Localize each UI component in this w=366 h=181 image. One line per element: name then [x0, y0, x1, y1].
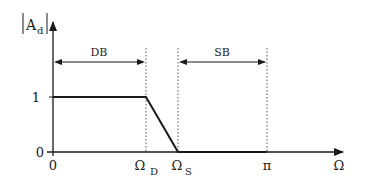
svg-text:Ω: Ω — [135, 158, 146, 173]
sb-band-arrow — [179, 59, 266, 65]
db-band-arrow — [54, 59, 145, 65]
x-tick-label-omega-s: Ω S — [172, 158, 192, 177]
y-tick-label-1: 1 — [32, 90, 40, 105]
x-tick-label-omega-d: Ω D — [135, 158, 158, 177]
filter-response-diagram: A d DB SB 1 0 0 Ω D Ω S π Ω — [0, 0, 366, 181]
x-tick-label-0: 0 — [49, 158, 57, 173]
svg-text:D: D — [150, 166, 158, 177]
svg-text:d: d — [37, 25, 44, 36]
db-band-label: DB — [91, 46, 108, 59]
svg-text:S: S — [185, 166, 192, 177]
svg-text:Ω: Ω — [172, 158, 183, 173]
sb-band-label: SB — [214, 46, 230, 59]
response-curve — [53, 97, 267, 152]
x-tick-label-pi: π — [263, 158, 272, 173]
svg-text:A: A — [25, 17, 37, 33]
x-axis-label: Ω — [334, 158, 345, 173]
y-tick-label-0: 0 — [36, 145, 44, 160]
y-axis-label: A d — [23, 13, 47, 36]
